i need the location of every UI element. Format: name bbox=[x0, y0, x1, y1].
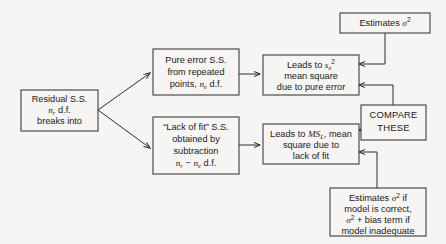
lack-of-fit-ss-line-1: “Lack of fit” S.S. bbox=[163, 122, 228, 132]
pure-error-ss-box: Pure error S.S. from repeated points, ne… bbox=[153, 49, 239, 95]
estimates-sigma-squared-box: Estimates σ2 bbox=[340, 13, 430, 33]
estimates-bias-line-2: model is correct, bbox=[344, 204, 411, 214]
compare-these-box: COMPARE THESE bbox=[361, 105, 426, 140]
lack-of-fit-ss-line-2: obtained by bbox=[172, 134, 220, 144]
lack-of-fit-ms-line-3: lack of fit bbox=[293, 151, 330, 161]
compare-these-line-1: COMPARE bbox=[369, 109, 417, 120]
estimates-sigma-text: Estimates σ2 bbox=[359, 16, 410, 28]
compare-these-line-2: THESE bbox=[377, 122, 409, 133]
residual-ss-line-2: nr d.f. bbox=[48, 105, 71, 115]
residual-ss-line-3: breaks into bbox=[37, 116, 82, 126]
pure-error-ss-line-1: Pure error S.S. bbox=[165, 55, 226, 65]
residual-ss-box: Residual S.S. nr d.f. breaks into bbox=[21, 90, 98, 131]
pure-error-ms-line-2: mean square bbox=[284, 71, 338, 81]
pure-error-ms-line-1: Leads to se2 bbox=[287, 58, 335, 71]
pure-error-ss-line-3: points, ne d.f. bbox=[170, 79, 222, 89]
flow-diagram-canvas: Residual S.S. nr d.f. breaks into Pure e… bbox=[0, 0, 446, 244]
lack-of-fit-mean-square-box: Leads to MSL, mean square due to lack of… bbox=[263, 124, 359, 164]
estimates-bias-line-4: model inadequate bbox=[341, 226, 414, 236]
edge-estimates-bias-to-lack-of-fit-ms bbox=[359, 152, 377, 188]
pure-error-ms-line-3: due to pure error bbox=[277, 82, 345, 92]
lack-of-fit-ms-line-1: Leads to MSL, mean bbox=[270, 129, 352, 139]
lack-of-fit-ss-box: “Lack of fit” S.S. obtained by subtracti… bbox=[153, 117, 239, 174]
estimates-bias-line-3: σ2 + bias term if bbox=[346, 213, 410, 225]
lack-of-fit-ms-line-2: square due to bbox=[283, 140, 339, 150]
pure-error-ss-line-2: from repeated bbox=[167, 67, 224, 77]
flow-diagram: Residual S.S. nr d.f. breaks into Pure e… bbox=[0, 0, 446, 244]
residual-ss-line-1: Residual S.S. bbox=[32, 94, 88, 104]
edge-estimates-sigma-to-pure-error-ms bbox=[359, 33, 385, 64]
estimates-sigma-bias-box: Estimates σ2 if model is correct, σ2 + b… bbox=[330, 188, 426, 236]
edge-compare-to-pure-error-ms bbox=[359, 85, 393, 105]
pure-error-mean-square-box: Leads to se2 mean square due to pure err… bbox=[263, 55, 359, 95]
edge-residual-to-pure-error bbox=[98, 73, 150, 110]
lack-of-fit-ss-line-3: subtraction bbox=[174, 146, 219, 156]
edge-residual-to-lack-of-fit bbox=[98, 110, 150, 148]
